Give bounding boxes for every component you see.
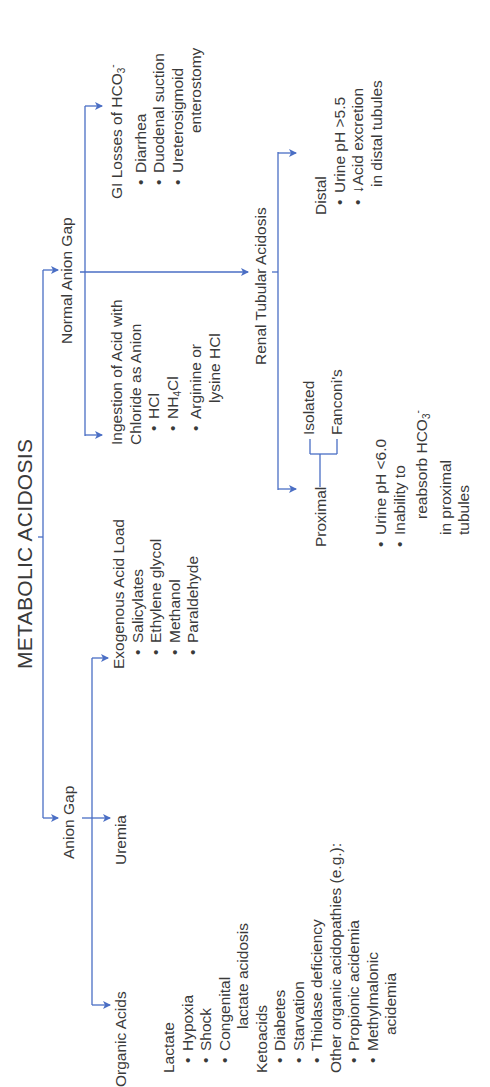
gi-losses: GI Losses of HCO3- Diarrhea Duodenal suc… [104, 48, 206, 199]
proximal-subtype-isolated: Isolated [300, 381, 319, 435]
list-item-continuation: reabsorb HCO3- [409, 410, 437, 547]
subscript: 4 [172, 391, 183, 397]
list-item: NH4Cl [164, 299, 188, 431]
reabsorb-text: reabsorb HCO [413, 419, 430, 519]
gi-losses-text: GI Losses of HCO [108, 73, 125, 199]
organic-acids-label: Organic Acids [112, 991, 131, 1087]
list-item: Shock [197, 843, 216, 1063]
organic-acids-detail: Lactate Hypoxia Shock Congenital lactate… [160, 843, 401, 1073]
list-item: Congenital [216, 843, 235, 1063]
list-item-continuation: in distal tubules [368, 80, 387, 215]
list-item: Ethylene glycol [147, 519, 166, 655]
list-item-continuation: lactate acidosis [234, 843, 253, 1073]
list-item-continuation: in proximal [437, 410, 456, 547]
ingestion-heading-line2: Chloride as Anion [127, 299, 146, 445]
distal-heading: Distal [312, 80, 331, 215]
list-item: Hypoxia [179, 843, 198, 1063]
other-acidopathies-list: Propionic acidemia Methylmalonic [345, 843, 382, 1073]
proximal-subtype-fanconi: Fanconi's [328, 369, 347, 435]
nh4-tail: Cl [164, 376, 181, 391]
list-item: Methylmalonic [364, 843, 383, 1063]
proximal-list: Urine pH <6.0 Inability to [372, 410, 409, 547]
list-item: ↓Acid excretion [349, 80, 368, 205]
list-item: Arginine or [187, 299, 206, 431]
list-item: Salicylates [129, 519, 148, 655]
list-item: Urine pH <6.0 [372, 410, 391, 547]
exogenous-heading: Exogenous Acid Load [110, 519, 129, 669]
list-item-continuation: acidemia [382, 843, 401, 1073]
diagram-title: METABOLIC ACIDOSIS [14, 439, 36, 669]
list-item: Paraldehyde [184, 519, 203, 655]
list-item: Methanol [166, 519, 185, 655]
superscript: - [412, 410, 423, 413]
list-item: Inability to [391, 410, 410, 547]
list-item: Urine pH >5.5 [331, 80, 350, 205]
anion-gap-label: Anion Gap [60, 786, 79, 859]
lactate-list: Hypoxia Shock Congenital [179, 843, 235, 1073]
uremia-label: Uremia [112, 815, 131, 865]
normal-anion-gap-label: Normal Anion Gap [58, 217, 77, 344]
exogenous-acid-load: Exogenous Acid Load Salicylates Ethylene… [110, 519, 203, 669]
list-item: Diabetes [271, 843, 290, 1063]
list-item-continuation: lysine HCl [206, 299, 225, 445]
list-item: Thiolase deficiency [308, 843, 327, 1063]
nh4-text: NH [164, 397, 181, 419]
list-item: HCl [145, 299, 164, 431]
other-acidopathies-heading: Other organic acidopathies (e.g.): [327, 843, 346, 1073]
list-item: Duodenal suction [150, 48, 169, 185]
exogenous-list: Salicylates Ethylene glycol Methanol Par… [129, 519, 203, 669]
list-item-continuation: enterostomy [187, 48, 206, 199]
ingestion-heading-line1: Ingestion of Acid with [108, 299, 127, 445]
distal-detail: Distal Urine pH >5.5 ↓Acid excretion in … [312, 80, 386, 215]
subscript: 3 [421, 414, 432, 420]
proximal-label: Proximal [312, 487, 331, 547]
lactate-heading: Lactate [160, 843, 179, 1073]
ketoacids-heading: Ketoacids [253, 843, 272, 1073]
subscript: 3 [116, 68, 127, 74]
rta-label: Renal Tubular Acidosis [252, 207, 271, 365]
superscript: - [107, 64, 118, 67]
gi-losses-heading: GI Losses of HCO3- [104, 48, 132, 199]
proximal-detail: Urine pH <6.0 Inability to reabsorb HCO3… [372, 410, 474, 547]
ingestion-of-acid: Ingestion of Acid with Chloride as Anion… [108, 299, 224, 445]
list-item: Propionic acidemia [345, 843, 364, 1063]
diagram-canvas: METABOLIC ACIDOSIS Anion Gap Normal Anio… [0, 0, 490, 1087]
list-item: Ureterosigmoid [169, 48, 188, 185]
list-item-continuation: tubules [455, 410, 474, 547]
ingestion-list: HCl NH4Cl Arginine or [145, 299, 206, 445]
list-item: Diarrhea [132, 48, 151, 185]
ketoacids-list: Diabetes Starvation Thiolase deficiency [271, 843, 327, 1073]
gi-losses-list: Diarrhea Duodenal suction Ureterosigmoid [132, 48, 188, 199]
list-item: Starvation [290, 843, 309, 1063]
distal-list: Urine pH >5.5 ↓Acid excretion [331, 80, 368, 215]
